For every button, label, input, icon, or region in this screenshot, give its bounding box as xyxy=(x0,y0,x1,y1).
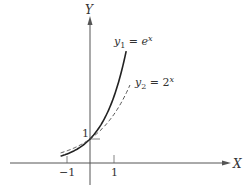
series-ex-label-sup: x xyxy=(148,34,153,43)
x-axis-arrow-icon xyxy=(222,161,231,166)
x-tick-label-neg1: −1 xyxy=(59,166,75,179)
series-ex-curve xyxy=(61,51,127,156)
y-axis-label: Y xyxy=(85,3,94,17)
series-2x-curve xyxy=(61,85,130,153)
x-axis-label: X xyxy=(232,157,242,171)
series-2x-label-sup: x xyxy=(170,75,175,84)
series-ex-label: y1 = ex xyxy=(113,34,153,50)
chart: X Y −1 1 1 y1 = ex y2 = 2x xyxy=(0,0,243,192)
series-ex-label-eq: = e xyxy=(125,35,148,48)
x-tick-label-1: 1 xyxy=(111,166,118,179)
y-axis-arrow-icon xyxy=(88,16,93,25)
y-axis: Y xyxy=(85,3,94,185)
series-2x-label: y2 = 2x xyxy=(134,75,175,91)
y-tick-label-1: 1 xyxy=(82,127,89,140)
series-2x-label-eq: = 2 xyxy=(146,76,169,89)
x-axis: X xyxy=(10,157,242,171)
